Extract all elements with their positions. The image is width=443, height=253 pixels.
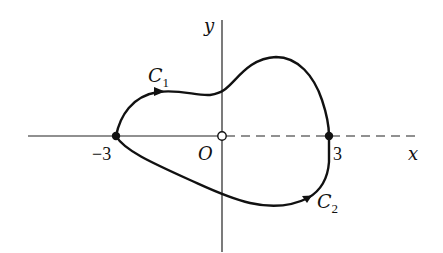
- x-axis-label: x: [408, 143, 418, 164]
- tick-label-neg3: −3: [92, 144, 111, 164]
- c1-label-base: C: [148, 64, 163, 86]
- origin-open-circle: [218, 132, 226, 140]
- point-neg3: [112, 132, 120, 140]
- diagram-canvas: y x O −3 3 C1 C2: [0, 0, 443, 253]
- c2-label: C2: [317, 190, 338, 216]
- c1-label-sub: 1: [163, 75, 170, 90]
- point-pos3: [325, 132, 333, 140]
- y-axis-label: y: [203, 15, 215, 36]
- tick-label-pos3: 3: [333, 144, 342, 164]
- c2-label-base: C: [317, 190, 332, 212]
- origin-label: O: [198, 143, 213, 164]
- c2-label-sub: 2: [332, 201, 339, 216]
- c1-label: C1: [148, 64, 169, 90]
